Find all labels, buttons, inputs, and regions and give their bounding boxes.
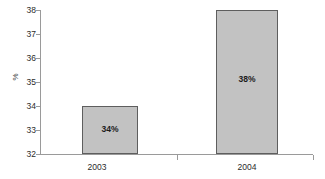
x-tick-mark	[313, 155, 314, 160]
bar-2004[interactable]: 38%	[216, 10, 278, 154]
bar-value-label-2004: 38%	[217, 74, 277, 84]
y-axis-tick-labels: 38 37 36 35 34 33 32	[14, 0, 36, 179]
y-tick-label: 35	[14, 78, 36, 86]
y-tick-label: 37	[14, 30, 36, 38]
y-tick-label: 38	[14, 6, 36, 14]
x-category-label-2004: 2004	[216, 162, 278, 172]
y-tick-label: 32	[14, 150, 36, 158]
y-tick-label: 33	[14, 126, 36, 134]
x-tick-mark	[177, 155, 178, 160]
bar-value-label-2003: 34%	[83, 124, 137, 134]
plot-area: 34% 38%	[41, 10, 313, 154]
bar-chart: % 38 37 36 35 34 33 32 34% 38% 2003 2004	[0, 0, 325, 179]
x-category-label-2003: 2003	[69, 162, 125, 172]
bar-2003[interactable]: 34%	[82, 106, 138, 154]
y-tick-label: 36	[14, 54, 36, 62]
y-tick-label: 34	[14, 102, 36, 110]
